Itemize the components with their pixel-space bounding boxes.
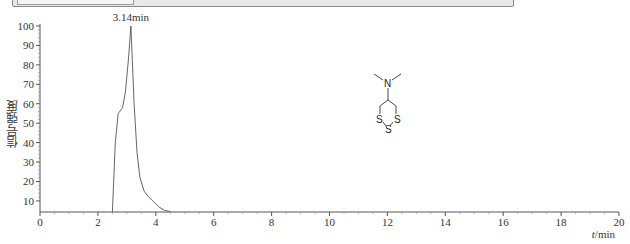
x-tick-label: 2 <box>95 216 101 228</box>
y-tick-label: 90 <box>23 39 35 51</box>
x-tick-label: 8 <box>269 216 275 228</box>
x-tick-label: 0 <box>37 216 43 228</box>
y-tick-label: 80 <box>23 59 35 71</box>
y-tick-label: 100 <box>18 20 35 32</box>
atom-sulfur: S <box>385 124 392 135</box>
x-tick-label: 12 <box>382 216 393 228</box>
ticks: 02468101214161820102030405060708090100 <box>18 20 626 228</box>
y-tick-label: 50 <box>23 117 35 129</box>
y-tick-label: 20 <box>23 175 35 187</box>
bond <box>374 74 383 80</box>
x-axis-unit: /min <box>595 228 616 240</box>
bond <box>388 100 396 106</box>
atom-sulfur: S <box>394 114 401 125</box>
y-tick-label: 40 <box>23 137 35 149</box>
molecule-structure: N S S S <box>374 74 401 135</box>
x-tick-label: 20 <box>614 216 626 228</box>
y-tick-label: 70 <box>23 78 35 90</box>
x-tick-label: 6 <box>211 216 217 228</box>
x-tick-label: 10 <box>324 216 336 228</box>
axes <box>40 24 619 212</box>
y-tick-label: 60 <box>23 98 35 110</box>
x-tick-label: 16 <box>498 216 510 228</box>
atom-nitrogen: N <box>384 78 391 89</box>
peak-annotation: 3.14min <box>113 11 150 23</box>
x-tick-label: 14 <box>440 216 452 228</box>
x-tick-label: 18 <box>556 216 568 228</box>
x-axis-label: t/min <box>592 228 616 240</box>
chromatogram-trace <box>112 26 170 212</box>
bond <box>392 74 401 80</box>
x-tick-label: 4 <box>153 216 159 228</box>
chromatogram-chart: 02468101214161820102030405060708090100 3… <box>0 0 630 244</box>
y-tick-label: 10 <box>23 195 35 207</box>
y-tick-label: 30 <box>23 156 35 168</box>
atom-sulfur: S <box>376 114 383 125</box>
bond <box>380 100 388 106</box>
